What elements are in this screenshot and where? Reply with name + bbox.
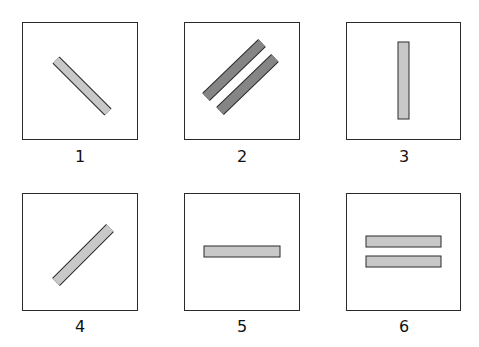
- panel-6-label: 6: [384, 317, 424, 336]
- panel-6-bar-top: [366, 236, 441, 247]
- bars-layer: [0, 0, 479, 347]
- panel-1-label: 1: [60, 147, 100, 166]
- panel-4-label: 4: [60, 317, 100, 336]
- panel-5-label: 5: [222, 317, 262, 336]
- panel-3-bar: [398, 42, 409, 119]
- panel-2-bars: [206, 43, 275, 111]
- panel-3-label: 3: [384, 147, 424, 166]
- panel-2-label: 2: [222, 147, 262, 166]
- panel-4-bar: [56, 228, 110, 282]
- panel-5-bar: [204, 246, 280, 257]
- panel-1-bar: [56, 60, 108, 112]
- panel-6-bar-bottom: [366, 256, 441, 267]
